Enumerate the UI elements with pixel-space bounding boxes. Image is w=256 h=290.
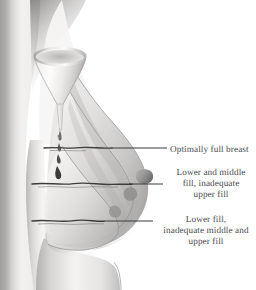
callout-label-optimal: Optimally full breast xyxy=(170,144,256,155)
droplet-speck-1 xyxy=(58,135,60,137)
illustration-figure: Optimally full breast Lower and middle f… xyxy=(0,0,256,290)
callout-label-lower: Lower fill, inadequate middle and upper … xyxy=(156,214,256,248)
nipple-middle-profile xyxy=(124,187,137,200)
callout-label-lower-middle: Lower and middle fill, inadequate upper … xyxy=(166,167,256,201)
